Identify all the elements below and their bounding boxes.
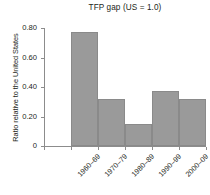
y-tick-label: 0 <box>33 141 37 150</box>
x-tick-label: 1990–99 <box>156 152 183 179</box>
x-tick <box>152 147 153 150</box>
y-tick: 0.40 <box>41 87 44 88</box>
x-tick <box>44 147 45 150</box>
y-tick: 0.80 <box>41 28 44 29</box>
bar <box>179 99 206 146</box>
bar <box>71 32 98 146</box>
x-tick <box>71 147 72 150</box>
bar <box>98 99 125 146</box>
x-tick <box>98 147 99 150</box>
x-tick-label: 1960–69 <box>75 152 102 179</box>
chart-figure: TFP gap (US = 1.0) Ratio relative to the… <box>0 0 210 195</box>
y-tick-label: 0.60 <box>22 53 37 62</box>
x-tick <box>179 147 180 150</box>
y-tick: 0.60 <box>41 58 44 59</box>
y-axis-line <box>44 28 45 147</box>
y-tick-label: 0.40 <box>22 82 37 91</box>
x-tick <box>206 147 207 150</box>
x-tick <box>125 147 126 150</box>
x-tick-label: 2000–09 <box>183 152 210 179</box>
y-tick-label: 0.80 <box>22 23 37 32</box>
y-tick: 0.20 <box>41 117 44 118</box>
y-tick-label: 0.20 <box>22 112 37 121</box>
y-axis-label: Ratio relative to the United States <box>11 20 20 156</box>
x-tick-label: 1980–89 <box>129 152 156 179</box>
x-tick-label: 1970–79 <box>102 152 129 179</box>
plot-area: 00.200.400.600.80 <box>44 24 206 147</box>
bar <box>125 124 152 146</box>
bar <box>152 91 179 146</box>
chart-title: TFP gap (US = 1.0) <box>40 3 210 12</box>
